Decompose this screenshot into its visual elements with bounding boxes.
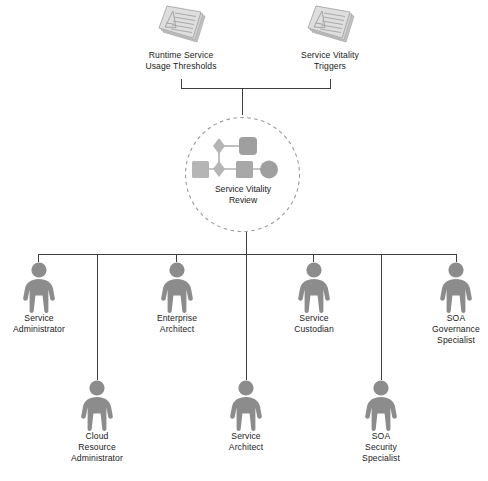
person-icon [56, 379, 138, 431]
person-icon [273, 261, 355, 313]
node-runtime-service-usage-thresholds[interactable]: Runtime Service Usage Thresholds [121, 2, 241, 72]
node-label: SOA Governance Specialist [415, 313, 488, 346]
person-icon [415, 261, 488, 313]
node-label: SOA Security Specialist [340, 431, 422, 464]
document-stack-icon [121, 2, 241, 50]
node-service-custodian[interactable]: Service Custodian [273, 261, 355, 335]
node-label: Service Vitality Review [183, 184, 303, 206]
node-service-vitality-triggers[interactable]: Service Vitality Triggers [270, 2, 390, 72]
node-label: Cloud Resource Administrator [56, 431, 138, 464]
node-label: Service Architect [205, 431, 287, 453]
node-service-administrator[interactable]: Service Administrator [0, 261, 80, 335]
person-icon [0, 261, 80, 313]
node-label: Service Vitality Triggers [270, 50, 390, 72]
node-soa-security-specialist[interactable]: SOA Security Specialist [340, 379, 422, 464]
node-label: Service Administrator [0, 313, 80, 335]
node-label: Service Custodian [273, 313, 355, 335]
node-service-architect[interactable]: Service Architect [205, 379, 287, 453]
person-icon [205, 379, 287, 431]
connector-documents-bracket [181, 79, 330, 88]
person-icon [340, 379, 422, 431]
node-soa-governance-specialist[interactable]: SOA Governance Specialist [415, 261, 488, 346]
person-icon [136, 261, 218, 313]
node-cloud-resource-administrator[interactable]: Cloud Resource Administrator [56, 379, 138, 464]
node-enterprise-architect[interactable]: Enterprise Architect [136, 261, 218, 335]
node-service-vitality-review[interactable]: Service Vitality Review [184, 116, 301, 233]
node-label: Runtime Service Usage Thresholds [121, 50, 241, 72]
node-label: Enterprise Architect [136, 313, 218, 335]
document-stack-icon [270, 2, 390, 50]
process-shapes-icon [192, 137, 278, 179]
